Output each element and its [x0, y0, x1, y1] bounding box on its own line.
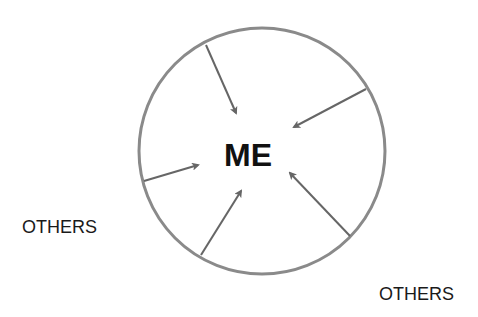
arrow-icon: [290, 173, 350, 236]
others-label-right: OTHERS: [379, 285, 454, 303]
center-label-me: ME: [224, 139, 272, 171]
arrow-icon: [206, 45, 236, 113]
arrow-icon: [144, 165, 198, 181]
arrow-icon: [294, 89, 366, 127]
others-label-left: OTHERS: [22, 218, 97, 236]
arrow-icon: [201, 191, 241, 255]
